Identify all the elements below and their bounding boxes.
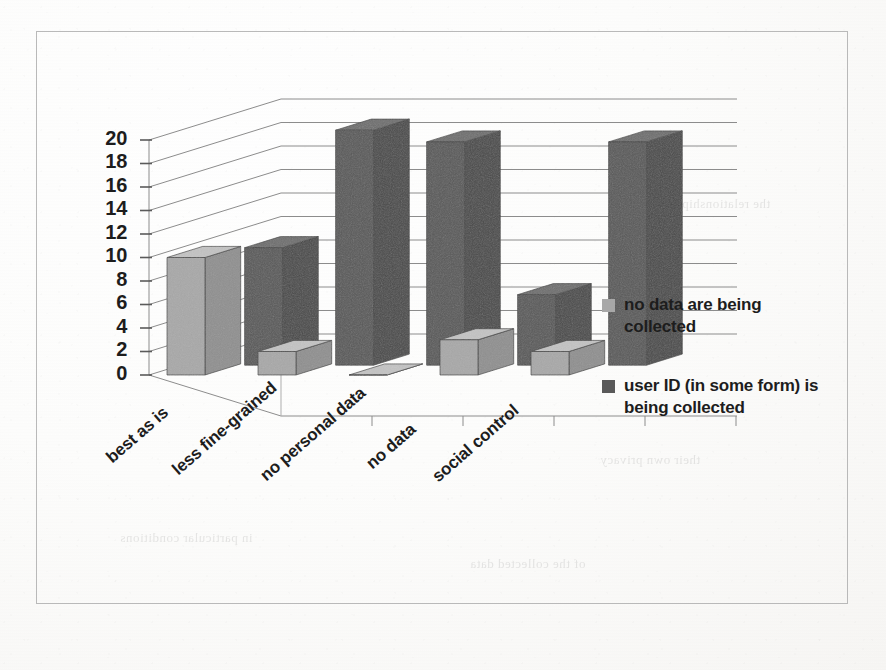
y-tick-label: 18 (81, 150, 127, 173)
y-tick-label: 14 (81, 197, 127, 220)
y-tick-label: 16 (81, 174, 127, 197)
y-tick-label: 10 (81, 244, 127, 267)
bar-light-0[interactable] (167, 246, 241, 375)
y-tick-label: 8 (81, 268, 127, 291)
legend-label: user ID (in some form) is being collecte… (624, 375, 829, 420)
y-tick-label: 20 (81, 127, 127, 150)
bar-light-2[interactable] (349, 364, 423, 375)
y-tick-label: 12 (81, 221, 127, 244)
legend-label: no data are being collected (624, 294, 829, 339)
chart-plot-area: 20 18 16 14 12 10 8 6 4 2 0 best as is l… (37, 32, 849, 605)
legend-item-no-data-collected[interactable]: no data are being collected (602, 294, 842, 339)
legend-swatch-dark (602, 380, 615, 393)
chart-legend: no data are being collected user ID (in … (602, 294, 842, 456)
bar-dark-1[interactable] (336, 119, 410, 365)
y-tick-label: 2 (81, 338, 127, 361)
y-axis-ticks (140, 140, 152, 375)
y-tick-label: 6 (81, 291, 127, 314)
y-tick-label: 4 (81, 315, 127, 338)
legend-item-user-id-collected[interactable]: user ID (in some form) is being collecte… (602, 375, 842, 420)
chart-frame: 20 18 16 14 12 10 8 6 4 2 0 best as is l… (36, 31, 848, 604)
legend-swatch-light (602, 299, 615, 312)
y-tick-label: 0 (81, 362, 127, 385)
